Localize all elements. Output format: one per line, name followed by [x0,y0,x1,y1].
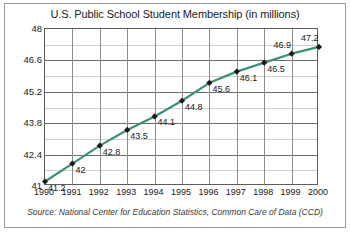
y-axis-tick-label: 48 [31,23,42,34]
chart-title: U.S. Public School Student Membership (i… [0,8,350,20]
chart-figure: U.S. Public School Student Membership (i… [0,0,350,233]
x-axis-tick-label: 2000 [308,187,328,197]
y-axis-tick-label: 45.2 [24,85,43,96]
x-axis-tick-label: 1993 [116,187,136,197]
x-axis-tick-label: 1994 [144,187,164,197]
data-point-label: 42.8 [103,147,121,157]
y-axis-tick-label: 46.6 [24,54,43,65]
data-point-label: 42 [75,165,85,175]
x-axis-tick-label: 1992 [89,187,109,197]
series-line [45,29,319,186]
data-point-label: 46.5 [267,64,285,74]
x-axis-tick-label: 1997 [226,187,246,197]
data-point-label: 41.2 [48,183,66,193]
x-axis-tick-label: 1998 [253,187,273,197]
data-point-label: 44.8 [185,102,203,112]
source-note: Source: National Center for Education St… [0,207,350,217]
x-axis-tick-label: 1996 [198,187,218,197]
y-axis-tick-label: 42.4 [24,148,43,159]
data-point-label: 44.1 [158,117,176,127]
plot-area [44,28,318,185]
x-axis-tick-label: 1999 [281,187,301,197]
data-point-label: 46.1 [240,73,258,83]
x-axis-tick-label: 1995 [171,187,191,197]
data-point-label: 46.9 [274,40,292,50]
data-point-label: 47.2 [301,33,319,43]
data-point-label: 45.6 [212,84,230,94]
data-point-marker [289,51,295,57]
data-point-label: 43.5 [130,131,148,141]
y-axis-tick-label: 43.8 [24,117,43,128]
